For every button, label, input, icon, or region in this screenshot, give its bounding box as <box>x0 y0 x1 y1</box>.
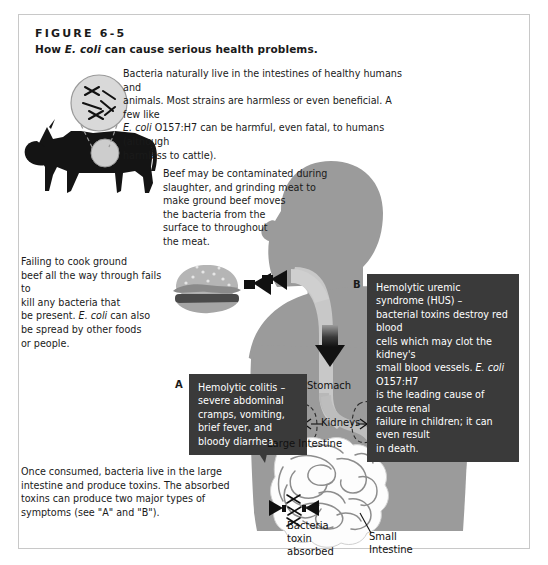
paragraph-cattle-line-1: Bacteria naturally live in the intestine… <box>123 67 411 94</box>
paragraph-beef-line-6: the meat. <box>163 235 343 249</box>
arrow-burger-to-body <box>262 270 287 290</box>
callout-a-line-2: severe abdominal <box>198 394 298 407</box>
paragraph-beef-line-5: surface to throughout <box>163 221 343 235</box>
callout-b-line-3: cells which may clot the kidney's <box>376 335 510 362</box>
paragraph-beef-line-2: slaughter, and grinding meat to <box>163 181 343 195</box>
paragraph-beef-line-3: make ground beef moves <box>163 194 343 208</box>
paragraph-cooking-line-1: Failing to cook ground <box>21 255 165 269</box>
arrow-toxin-right <box>302 500 319 516</box>
small-intestine-leader-line <box>360 513 371 533</box>
callout-b-line-2: bacterial toxins destroy red blood <box>376 308 510 335</box>
paragraph-consumed-line-4: symptoms (see "A" and "B"). <box>21 506 249 520</box>
label-small-intestine-line-2: Intestine <box>369 544 413 555</box>
paragraph-consumed: Once consumed, bacteria live in the larg… <box>21 465 249 519</box>
paragraph-cooking-line-4: be present. E. coli can also <box>21 309 165 323</box>
paragraph-beef-line-4: the bacteria from the <box>163 208 343 222</box>
paragraph-consumed-line-3: toxins can produce two major types of <box>21 492 249 506</box>
paragraph-cooking-line-3: kill any bacteria that <box>21 296 165 310</box>
paragraph-beef-line-1: Beef may be contaminated during <box>163 167 343 181</box>
paragraph-cattle-line-3: E. coli O157:H7 can be harmful, even fat… <box>123 121 411 148</box>
callout-b-line-6: failure in children; it can even result <box>376 415 510 442</box>
label-kidneys: Kidneys <box>321 417 360 428</box>
paragraph-beef: Beef may be contaminated during slaughte… <box>163 167 343 249</box>
callout-b-line-5: is the leading cause of acute renal <box>376 388 510 415</box>
arrow-toxin-left <box>269 500 286 516</box>
figure-caption: How E. coli can cause serious health pro… <box>35 43 318 55</box>
callout-a-line-1: Hemolytic colitis – <box>198 381 298 394</box>
callout-b: Hemolytic uremic syndrome (HUS) – bacter… <box>367 274 519 462</box>
paragraph-cooking: Failing to cook ground beef all the way … <box>21 255 165 350</box>
caption-suffix: can cause serious health problems. <box>101 43 318 55</box>
callout-a-line-4: brief fever, and <box>198 421 298 434</box>
bacteria-magnifier-circle <box>71 75 127 149</box>
arrow-beef-to-mouth <box>244 273 271 295</box>
label-stomach: Stomach <box>307 380 351 391</box>
callout-b-line-4: small blood vessels. E. coli O157:H7 <box>376 361 510 388</box>
figure-panel: FIGURE 6-5 How E. coli can cause serious… <box>18 14 530 549</box>
callout-a-line-3: cramps, vomiting, <box>198 408 298 421</box>
label-bacteria-line-3: absorbed <box>287 546 334 557</box>
small-intestine-coils <box>279 445 378 529</box>
label-large-intestine: Large Intestine <box>267 438 342 449</box>
label-small-intestine-line-1: Small <box>369 531 397 542</box>
paragraph-consumed-line-2: intestine and produce toxins. The absorb… <box>21 479 249 493</box>
callout-a-letter: A <box>175 379 183 390</box>
paragraph-consumed-line-1: Once consumed, bacteria live in the larg… <box>21 465 249 479</box>
paragraph-cooking-line-5: be spread by other foods <box>21 323 165 337</box>
callout-b-line-7: in death. <box>376 442 510 455</box>
label-bacteria-line-1: Bacteria <box>287 520 329 531</box>
figure-number: FIGURE 6-5 <box>35 27 126 40</box>
paragraph-cattle: Bacteria naturally live in the intestine… <box>123 67 411 162</box>
callout-b-line-1: Hemolytic uremic syndrome (HUS) – <box>376 281 510 308</box>
paragraph-cattle-line-2: animals. Most strains are harmless or ev… <box>123 94 411 121</box>
hamburger-icon <box>173 265 241 313</box>
paragraph-cattle-line-4: harmless to cattle). <box>123 149 411 163</box>
caption-species: E. coli <box>65 43 101 55</box>
callout-b-letter: B <box>353 279 361 290</box>
paragraph-cooking-line-2: beef all the way through fails to <box>21 269 165 296</box>
caption-prefix: How <box>35 43 65 55</box>
label-bacteria-line-2: toxin <box>287 533 312 544</box>
paragraph-cooking-line-6: or people. <box>21 337 165 351</box>
arrow-esophagus-down <box>315 325 345 367</box>
